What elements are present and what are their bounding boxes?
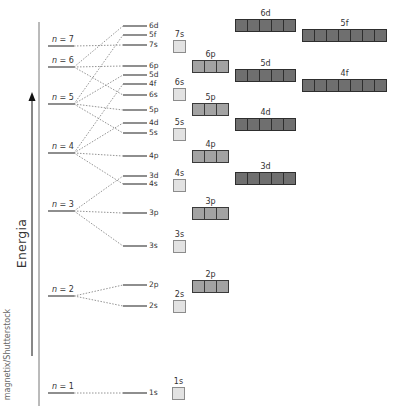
orbital-box <box>374 29 387 42</box>
orbital-label-7s: 7s <box>173 30 186 39</box>
sublevel-label-3p: 3p <box>149 208 159 217</box>
orbital-boxes-7s <box>173 40 185 53</box>
shell-label-n6: n = 6 <box>52 56 74 65</box>
orbital-boxes-5d <box>235 69 295 82</box>
connector-6p <box>74 66 123 67</box>
shell-label-n7: n = 7 <box>52 35 74 44</box>
orbital-box <box>216 207 229 220</box>
orbital-label-2s: 2s <box>173 290 186 299</box>
shell-label-n5: n = 5 <box>52 93 74 102</box>
sublevel-label-2s: 2s <box>149 301 158 310</box>
orbital-label-6s: 6s <box>173 78 186 87</box>
sublevel-label-5f: 5f <box>149 30 156 39</box>
orbital-boxes-2s <box>173 300 185 313</box>
orbital-label-6p: 6p <box>192 50 229 59</box>
orbital-box <box>216 103 229 116</box>
sublevel-label-4s: 4s <box>149 179 158 188</box>
orbital-box <box>173 40 186 53</box>
orbital-label-4d: 4d <box>235 108 296 117</box>
orbital-box <box>283 172 296 185</box>
orbital-label-3p: 3p <box>192 197 229 206</box>
orbital-box <box>173 240 186 253</box>
orbital-boxes-4f <box>302 79 386 92</box>
sublevel-label-6d: 6d <box>149 21 159 30</box>
orbital-box <box>172 387 185 400</box>
sublevel-label-5d: 5d <box>149 70 159 79</box>
sublevel-label-4p: 4p <box>149 151 159 160</box>
orbital-label-1s: 1s <box>172 377 185 386</box>
energy-axis-label: Energia <box>14 209 29 279</box>
connector-5d <box>74 75 123 104</box>
sublevel-label-1s: 1s <box>149 388 158 397</box>
orbital-boxes-1s <box>172 387 184 400</box>
shell-label-n3: n = 3 <box>52 200 74 209</box>
shell-label-n1: n = 1 <box>52 382 74 391</box>
orbital-label-4p: 4p <box>192 140 229 149</box>
sublevel-label-6s: 6s <box>149 90 158 99</box>
connector-5s <box>74 104 123 133</box>
orbital-boxes-5s <box>173 128 185 141</box>
orbital-boxes-4s <box>173 179 185 192</box>
sublevel-label-5p: 5p <box>149 105 159 114</box>
orbital-label-5s: 5s <box>173 118 186 127</box>
connector-6d <box>74 26 123 67</box>
connector-4d <box>74 123 123 153</box>
orbital-boxes-3p <box>192 207 228 220</box>
image-credit: magnetix/Shutterstock <box>3 297 12 412</box>
orbital-boxes-3d <box>235 172 295 185</box>
orbital-box <box>216 280 229 293</box>
orbital-box <box>173 88 186 101</box>
connector-lines <box>48 26 147 393</box>
orbital-label-5d: 5d <box>235 59 296 68</box>
connector-3p <box>74 211 123 213</box>
connector-2p <box>74 285 123 296</box>
orbital-boxes-2p <box>192 280 228 293</box>
orbital-boxes-3s <box>173 240 185 253</box>
sublevel-label-4d: 4d <box>149 118 159 127</box>
shell-label-n2: n = 2 <box>52 285 74 294</box>
connector-6s <box>74 67 123 95</box>
sublevel-label-7s: 7s <box>149 40 158 49</box>
orbital-label-3s: 3s <box>173 230 186 239</box>
orbital-label-5f: 5f <box>302 19 387 28</box>
orbital-boxes-6p <box>192 60 228 73</box>
orbital-box <box>374 79 387 92</box>
sublevel-label-3s: 3s <box>149 241 158 250</box>
sublevel-label-4f: 4f <box>149 79 156 88</box>
orbital-box <box>173 300 186 313</box>
shell-label-n4: n = 4 <box>52 142 74 151</box>
orbital-label-4f: 4f <box>302 69 387 78</box>
orbital-boxes-4d <box>235 118 295 131</box>
connector-4s <box>74 153 123 184</box>
orbital-label-2p: 2p <box>192 270 229 279</box>
connector-3d <box>74 176 123 211</box>
orbital-label-4s: 4s <box>173 169 186 178</box>
orbital-boxes-6d <box>235 19 295 32</box>
orbital-box <box>173 179 186 192</box>
connector-4p <box>74 153 123 156</box>
orbital-boxes-6s <box>173 88 185 101</box>
sublevel-label-5s: 5s <box>149 128 158 137</box>
sublevel-label-2p: 2p <box>149 280 159 289</box>
connector-5p <box>74 104 123 110</box>
orbital-label-5p: 5p <box>192 93 229 102</box>
orbital-box <box>283 69 296 82</box>
connector-2s <box>74 296 123 306</box>
orbital-boxes-5p <box>192 103 228 116</box>
orbital-label-3d: 3d <box>235 162 296 171</box>
sublevel-label-6p: 6p <box>149 61 159 70</box>
orbital-box <box>216 60 229 73</box>
orbital-box <box>216 150 229 163</box>
orbital-boxes-5f <box>302 29 386 42</box>
orbital-boxes-4p <box>192 150 228 163</box>
orbital-box <box>283 118 296 131</box>
arrow-up-icon <box>29 92 36 101</box>
connector-3s <box>74 211 123 246</box>
orbital-box <box>283 19 296 32</box>
orbital-box <box>173 128 186 141</box>
orbital-label-6d: 6d <box>235 9 296 18</box>
